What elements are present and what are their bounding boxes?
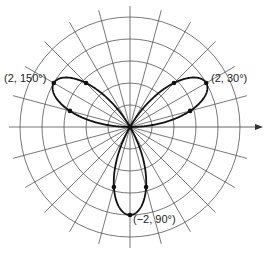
curve-point-dot <box>84 81 89 86</box>
curve-point-dot <box>172 81 177 86</box>
curve-point-dot <box>188 109 193 114</box>
curve-point-dot <box>112 185 117 190</box>
label-point-neg2-90: (−2, 90°) <box>133 213 176 225</box>
curve-point-dot <box>204 81 209 86</box>
label-point-2-150: (2, 150°) <box>4 72 46 84</box>
curve-point-dot <box>128 213 133 218</box>
curve-point-dot <box>68 109 73 114</box>
pole-dot <box>128 125 133 130</box>
curve-point-dot <box>51 81 56 86</box>
label-point-2-30: (2, 30°) <box>211 72 247 84</box>
curve-point-dot <box>144 185 149 190</box>
